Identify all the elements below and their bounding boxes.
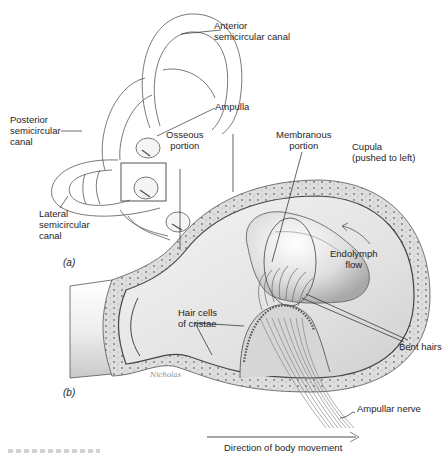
label-endolymph-line2: flow <box>330 259 378 270</box>
label-osseous-line2: portion <box>166 140 204 151</box>
label-ampullar-nerve: Ampullar nerve <box>357 403 421 414</box>
label-anterior-line2: semicircular canal <box>214 31 290 42</box>
label-hair-cells-line1: Hair cells <box>178 307 217 318</box>
label-endolymph-flow: Endolymph flow <box>330 248 378 270</box>
label-membranous-line2: portion <box>276 140 331 151</box>
panel-a-tag: (a) <box>63 257 75 268</box>
label-posterior-line1: Posterior <box>10 114 61 125</box>
label-lateral-line2: semicircular <box>39 219 90 230</box>
label-cupula-line2: (pushed to left) <box>352 152 415 163</box>
arrow-caption: Direction of body movement <box>224 442 342 453</box>
label-hair-cells-line2: of cristae <box>178 318 217 329</box>
label-cupula-line1: Cupula <box>352 141 415 152</box>
label-endolymph-line1: Endolymph <box>330 248 378 259</box>
panel-a-canals-drawing <box>52 14 242 240</box>
label-hair-cells: Hair cells of cristae <box>178 307 217 329</box>
label-anterior-line1: Anterior <box>214 20 290 31</box>
label-posterior-line3: canal <box>10 136 61 147</box>
cropped-caption-fragment <box>8 449 100 453</box>
direction-arrow <box>207 432 359 442</box>
panel-b-tag: (b) <box>63 387 75 398</box>
artist-signature: Nicholas <box>149 371 181 379</box>
label-membranous-portion: Membranous portion <box>276 129 331 151</box>
label-osseous-portion: Osseous portion <box>166 129 204 151</box>
label-membranous-line1: Membranous <box>276 129 331 140</box>
label-lateral-line3: canal <box>39 230 90 241</box>
label-anterior-canal: Anterior semicircular canal <box>214 20 290 42</box>
panel-b-ampulla-section: Nicholas <box>70 134 430 428</box>
label-posterior-line2: semicircular <box>10 125 61 136</box>
label-osseous-line1: Osseous <box>166 129 204 140</box>
label-lateral-canal: Lateral semicircular canal <box>39 208 90 241</box>
label-posterior-canal: Posterior semicircular canal <box>10 114 61 147</box>
label-bent-hairs: Bent hairs <box>399 341 442 352</box>
label-lateral-line1: Lateral <box>39 208 90 219</box>
label-cupula: Cupula (pushed to left) <box>352 141 415 163</box>
label-ampulla: Ampulla <box>215 101 249 112</box>
